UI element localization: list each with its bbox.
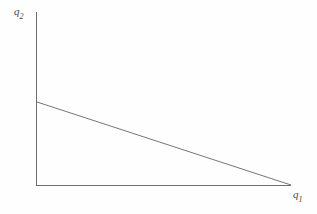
x-axis-label-subscript: 1 <box>299 195 303 204</box>
y-axis-label: q2 <box>14 6 24 20</box>
x-axis-label: q1 <box>293 189 303 203</box>
y-axis-label-base: q <box>14 5 20 17</box>
plot-area <box>0 0 317 214</box>
y-axis-label-subscript: 2 <box>20 12 24 21</box>
figure-canvas: q2 q1 <box>0 0 317 214</box>
frontier-line <box>37 102 291 185</box>
x-axis-label-base: q <box>293 188 299 200</box>
